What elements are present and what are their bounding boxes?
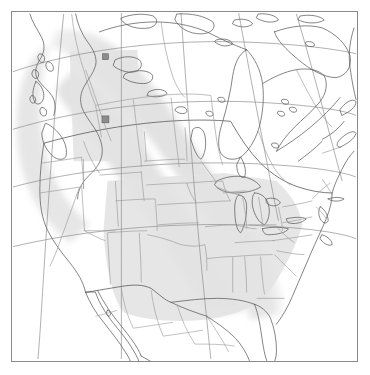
marker-south[interactable] [102, 116, 109, 123]
map-frame [11, 11, 358, 362]
map-container [0, 0, 370, 375]
map-canvas[interactable] [12, 12, 357, 361]
marker-north[interactable] [102, 54, 108, 60]
